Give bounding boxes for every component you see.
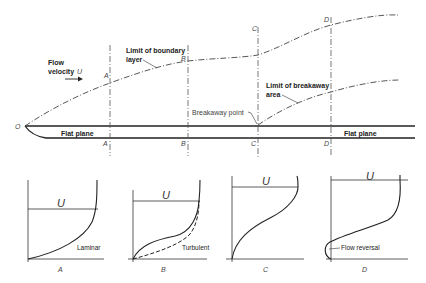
station-a-bottom-label: A <box>102 140 108 147</box>
breakaway-point-label: Breakaway point <box>192 109 244 117</box>
profile-b-note: Turbulent <box>182 244 209 251</box>
profile-c-caption: C <box>263 266 269 273</box>
breakaway-area-label-2: area <box>266 91 281 98</box>
boundary-layer-diagram: O Flow velocity U A B C D A B C D Limit … <box>0 0 426 283</box>
profile-c-velocity-symbol: U <box>262 175 270 187</box>
boundary-layer-label-2: layer <box>126 56 143 64</box>
profile-d-caption: D <box>362 266 367 273</box>
profile-c <box>226 176 304 262</box>
station-c-bottom-label: C <box>251 140 257 147</box>
station-a-top-label: A <box>103 72 109 79</box>
flat-plane-label-left: Flat plane <box>61 130 94 138</box>
profile-d-note: Flow reversal <box>341 244 380 251</box>
station-d-bottom-label: D <box>324 140 329 147</box>
profile-b-velocity-symbol: U <box>162 189 170 201</box>
origin-label: O <box>15 123 21 130</box>
profile-a-caption: A <box>57 266 63 273</box>
breakaway-area-leader <box>282 95 298 103</box>
flat-plane-label-right: Flat plane <box>344 130 377 138</box>
flow-velocity-label-2: velocity <box>48 68 74 76</box>
flow-arrow-icon <box>65 77 83 82</box>
breakaway-point-leader <box>248 112 257 124</box>
profile-a-note: Laminar <box>77 244 101 251</box>
station-b-top-label: B <box>181 55 186 62</box>
flow-velocity-label-1: Flow <box>48 59 64 66</box>
boundary-layer-leader <box>143 60 157 68</box>
profile-b-caption: B <box>161 266 166 273</box>
station-c-top-label: C <box>252 25 258 32</box>
boundary-layer-label-1: Limit of boundary <box>126 47 185 55</box>
station-b-bottom-label: B <box>181 140 186 147</box>
station-d-top-label: D <box>324 16 329 23</box>
breakaway-area-label-1: Limit of breakaway <box>266 82 329 90</box>
profile-a-velocity-symbol: U <box>57 197 65 209</box>
flow-velocity-symbol: U <box>77 68 83 75</box>
profile-d-velocity-symbol: U <box>366 170 374 182</box>
